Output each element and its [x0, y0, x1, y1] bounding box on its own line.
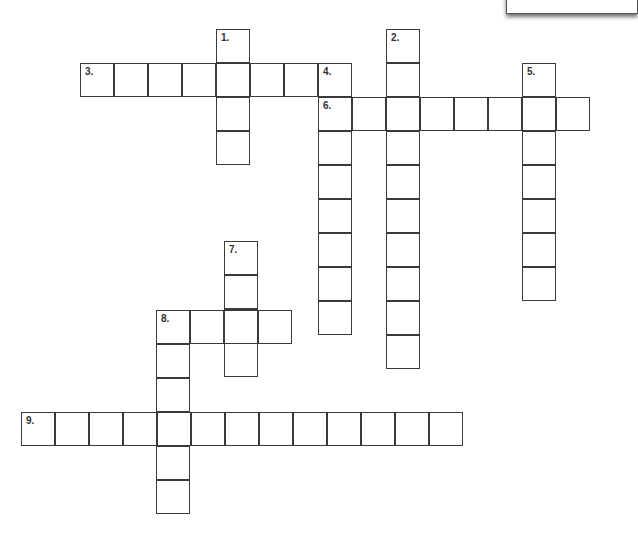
letter-input[interactable] — [157, 345, 189, 377]
letter-input[interactable] — [523, 268, 555, 300]
letter-input[interactable] — [387, 30, 419, 62]
crossword-cell[interactable] — [327, 412, 361, 446]
letter-input[interactable] — [319, 268, 351, 300]
crossword-cell[interactable] — [224, 310, 258, 344]
crossword-cell[interactable] — [259, 412, 293, 446]
letter-input[interactable] — [387, 132, 419, 164]
letter-input[interactable] — [90, 413, 122, 445]
letter-input[interactable] — [387, 166, 419, 198]
crossword-cell[interactable]: 1. — [216, 29, 250, 63]
letter-input[interactable] — [22, 413, 54, 445]
letter-input[interactable] — [260, 413, 292, 445]
letter-input[interactable] — [489, 98, 521, 130]
crossword-cell[interactable]: 7. — [224, 241, 258, 275]
letter-input[interactable] — [523, 132, 555, 164]
letter-input[interactable] — [319, 64, 351, 96]
crossword-cell[interactable] — [156, 378, 190, 412]
crossword-cell[interactable] — [318, 267, 352, 301]
crossword-cell[interactable] — [386, 301, 420, 335]
crossword-cell[interactable] — [386, 63, 420, 97]
crossword-cell[interactable] — [191, 412, 225, 446]
crossword-cell[interactable] — [216, 97, 250, 131]
crossword-cell[interactable] — [318, 199, 352, 233]
crossword-cell[interactable] — [156, 446, 190, 480]
crossword-cell[interactable] — [157, 412, 191, 446]
crossword-cell[interactable] — [361, 412, 395, 446]
letter-input[interactable] — [124, 413, 156, 445]
crossword-cell[interactable] — [454, 97, 488, 131]
crossword-cell[interactable] — [216, 131, 250, 165]
letter-input[interactable] — [387, 234, 419, 266]
letter-input[interactable] — [523, 64, 555, 96]
letter-input[interactable] — [251, 64, 283, 96]
crossword-cell[interactable] — [522, 199, 556, 233]
letter-input[interactable] — [523, 98, 555, 130]
crossword-cell[interactable] — [148, 63, 182, 97]
letter-input[interactable] — [225, 344, 257, 376]
crossword-cell[interactable] — [556, 97, 590, 131]
letter-input[interactable] — [523, 234, 555, 266]
letter-input[interactable] — [259, 311, 291, 343]
crossword-cell[interactable] — [386, 199, 420, 233]
crossword-cell[interactable] — [318, 301, 352, 335]
letter-input[interactable] — [387, 98, 419, 130]
crossword-cell[interactable] — [318, 131, 352, 165]
crossword-cell[interactable] — [522, 233, 556, 267]
letter-input[interactable] — [217, 98, 249, 130]
crossword-cell[interactable] — [156, 344, 190, 378]
crossword-cell[interactable] — [522, 267, 556, 301]
letter-input[interactable] — [387, 336, 419, 368]
letter-input[interactable] — [157, 447, 189, 479]
crossword-cell[interactable] — [318, 233, 352, 267]
letter-input[interactable] — [353, 98, 385, 130]
letter-input[interactable] — [158, 413, 190, 445]
crossword-cell[interactable] — [386, 233, 420, 267]
crossword-cell[interactable]: 5. — [522, 63, 556, 97]
letter-input[interactable] — [294, 413, 326, 445]
letter-input[interactable] — [455, 98, 487, 130]
letter-input[interactable] — [149, 64, 181, 96]
letter-input[interactable] — [557, 98, 589, 130]
letter-input[interactable] — [319, 234, 351, 266]
letter-input[interactable] — [396, 413, 428, 445]
crossword-cell[interactable] — [522, 97, 556, 131]
letter-input[interactable] — [430, 413, 462, 445]
crossword-cell[interactable] — [123, 412, 157, 446]
crossword-cell[interactable] — [395, 412, 429, 446]
letter-input[interactable] — [523, 200, 555, 232]
letter-input[interactable] — [56, 413, 88, 445]
letter-input[interactable] — [387, 268, 419, 300]
crossword-cell[interactable] — [420, 97, 454, 131]
crossword-cell[interactable] — [216, 63, 250, 97]
crossword-cell[interactable] — [488, 97, 522, 131]
letter-input[interactable] — [192, 413, 224, 445]
crossword-cell[interactable] — [386, 267, 420, 301]
crossword-cell[interactable]: 8. — [156, 310, 190, 344]
letter-input[interactable] — [217, 30, 249, 62]
crossword-cell[interactable] — [258, 310, 292, 344]
letter-input[interactable] — [115, 64, 147, 96]
letter-input[interactable] — [319, 302, 351, 334]
letter-input[interactable] — [285, 64, 317, 96]
crossword-cell[interactable] — [250, 63, 284, 97]
letter-input[interactable] — [328, 413, 360, 445]
letter-input[interactable] — [191, 311, 223, 343]
crossword-cell[interactable] — [225, 412, 259, 446]
letter-input[interactable] — [217, 64, 249, 96]
crossword-cell[interactable] — [386, 165, 420, 199]
crossword-cell[interactable] — [182, 63, 216, 97]
crossword-cell[interactable]: 4. — [318, 63, 352, 97]
letter-input[interactable] — [362, 413, 394, 445]
crossword-cell[interactable] — [352, 97, 386, 131]
letter-input[interactable] — [319, 166, 351, 198]
crossword-cell[interactable] — [114, 63, 148, 97]
letter-input[interactable] — [319, 132, 351, 164]
letter-input[interactable] — [319, 200, 351, 232]
crossword-cell[interactable] — [224, 343, 258, 377]
letter-input[interactable] — [225, 242, 257, 274]
crossword-cell[interactable] — [386, 97, 420, 131]
crossword-cell[interactable]: 9. — [21, 412, 55, 446]
crossword-cell[interactable] — [318, 165, 352, 199]
letter-input[interactable] — [387, 200, 419, 232]
letter-input[interactable] — [225, 311, 257, 343]
